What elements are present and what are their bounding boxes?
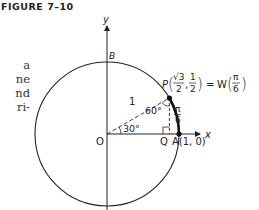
angle-30-arc [119, 127, 121, 134]
arc-length-denominator: 6 [175, 115, 181, 125]
point-q-label: Q [160, 136, 168, 147]
angle-60-arc [162, 102, 169, 106]
arc-length-numerator: π [175, 104, 181, 114]
p-y-denominator: 2 [190, 84, 196, 94]
w-function-label: W [217, 79, 227, 90]
w-denominator: 6 [233, 84, 239, 94]
angle-60-label: 60° [145, 105, 162, 116]
right-angle-marker [163, 127, 169, 134]
unit-circle-diagram: y x B O Q A(1, 0) 1 30° 60° π 6 P ( √3 2… [0, 0, 259, 210]
w-numerator: π [233, 72, 239, 82]
paren-close: ) [197, 75, 203, 93]
point-b-label: B [109, 51, 115, 61]
p-x-numerator: √3 [173, 72, 184, 82]
angle-30-label: 30° [123, 123, 140, 134]
point-p [167, 95, 172, 100]
p-x-denominator: 2 [176, 84, 182, 94]
y-axis-label: y [102, 14, 110, 25]
point-a-label: A(1, 0) [172, 136, 206, 147]
w-paren-open: ( [227, 75, 233, 93]
p-y-numerator: 1 [190, 72, 196, 82]
equals-sign: = [206, 79, 214, 90]
w-paren-close: ) [241, 75, 247, 93]
origin-label: O [96, 136, 104, 147]
radius-label: 1 [129, 96, 135, 107]
comma: , [185, 79, 188, 90]
